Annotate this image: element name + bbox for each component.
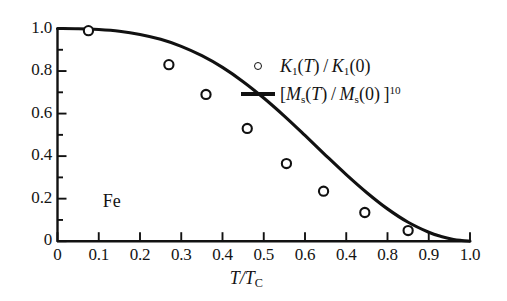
y-tick-label: 0.8	[0, 60, 52, 80]
x-tick-label: 1.0	[440, 245, 500, 265]
legend-label-ms: [Ms(T) / Ms(0) ]10	[280, 83, 401, 104]
data-point-marker	[360, 208, 369, 217]
y-axis-ticks	[58, 29, 67, 242]
data-point-marker	[243, 124, 252, 133]
open-circle-marker-icon	[236, 62, 280, 70]
legend-entry-ms: [Ms(T) / Ms(0) ]10	[236, 80, 486, 108]
legend-entry-k1: K1(T) / K1(0)	[236, 52, 486, 80]
data-point-marker	[84, 26, 93, 35]
legend-label-k1: K1(T) / K1(0)	[280, 56, 370, 77]
x-axis-title: T/TC	[230, 268, 263, 291]
line-sample-icon	[236, 92, 280, 95]
data-point-marker	[201, 90, 210, 99]
data-point-marker	[282, 159, 291, 168]
y-tick-label: 0	[0, 230, 52, 250]
y-tick-label: 1.0	[0, 18, 52, 38]
sample-annotation-fe: Fe	[103, 191, 121, 212]
figure-container: K1(T) / K1(0) [Ms(T) / Ms(0) ]10 T/TC Fe…	[0, 0, 507, 301]
y-tick-label: 0.6	[0, 103, 52, 123]
y-tick-label: 0.2	[0, 188, 52, 208]
data-point-marker	[164, 60, 173, 69]
data-point-marker	[319, 187, 328, 196]
y-tick-label: 0.4	[0, 145, 52, 165]
data-point-marker	[404, 226, 413, 235]
legend: K1(T) / K1(0) [Ms(T) / Ms(0) ]10	[236, 52, 486, 108]
